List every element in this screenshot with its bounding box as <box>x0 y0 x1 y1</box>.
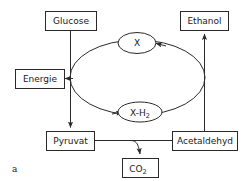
panel-label: a <box>12 164 18 174</box>
figure-panel: Glucose Ethanol Energie Pyruvat Acetalde… <box>0 0 251 181</box>
node-ethanol-label: Ethanol <box>187 16 221 26</box>
node-pyruvat-label: Pyruvat <box>53 136 88 146</box>
node-x-label: X <box>134 38 140 48</box>
edge-branch-to-co2 <box>129 141 140 155</box>
node-acetaldehyd-label: Acetaldehyd <box>177 136 233 146</box>
node-glucose-label: Glucose <box>53 16 89 26</box>
metabolic-pathway-diagram: Glucose Ethanol Energie Pyruvat Acetalde… <box>0 0 251 181</box>
node-co2-label-main: CO <box>129 163 142 173</box>
edge-cycle-arrow-to-x <box>156 43 166 46</box>
node-co2-label-subscript: 2 <box>143 167 147 175</box>
node-xh2-label-subscript: 2 <box>146 111 150 119</box>
node-xh2-label-main: X-H <box>130 107 146 117</box>
node-energie-label: Energie <box>23 74 58 84</box>
